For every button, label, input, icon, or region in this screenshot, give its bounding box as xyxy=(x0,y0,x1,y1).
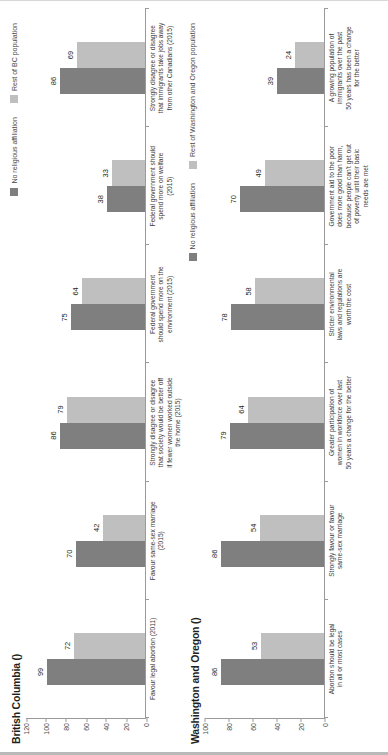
bar[interactable]: 70 xyxy=(240,186,323,212)
panel-header: British Columbia () No religious affilia… xyxy=(10,9,26,744)
x-axis-tick xyxy=(324,599,328,600)
x-axis-tick xyxy=(145,717,149,718)
x-axis-category-label: A growing population of immigrants over … xyxy=(328,9,370,127)
legend-item: Rest of Washington and Oregon population xyxy=(189,23,197,169)
bar-value-label: 49 xyxy=(254,169,263,177)
bar[interactable]: 79 xyxy=(230,423,324,449)
legend-item: No religious affiliation xyxy=(10,117,18,195)
bar[interactable]: 64 xyxy=(248,397,324,423)
x-axis-tickmarks xyxy=(142,9,146,718)
bar-value-label: 78 xyxy=(220,313,229,321)
x-axis-category-label: Favour legal abortion (2011) xyxy=(149,600,183,718)
bar-value-label: 58 xyxy=(244,287,253,295)
x-axis-tick xyxy=(324,481,328,482)
x-axis-category-label: Strongly disagree or disagree that socie… xyxy=(149,363,183,481)
bar[interactable]: 54 xyxy=(260,515,324,541)
legend-swatch-no-religious-affiliation xyxy=(189,253,197,261)
bar[interactable]: 99 xyxy=(47,659,145,685)
x-axis-tick xyxy=(324,126,328,127)
bar[interactable]: 86 xyxy=(60,423,145,449)
x-axis-category-label: Federal government should spend more on … xyxy=(149,127,183,245)
bar[interactable]: 64 xyxy=(82,278,145,304)
x-axis-category-label: Favour same-sex marriage (2015) xyxy=(149,482,183,600)
x-axis-tick xyxy=(145,599,149,600)
y-axis-tick-label: 100 xyxy=(201,723,208,735)
y-axis-tick-label: 40 xyxy=(102,723,109,731)
y-axis-tick-label: 20 xyxy=(297,723,304,731)
bar[interactable]: 38 xyxy=(107,186,145,212)
y-axis-tick-label: 100 xyxy=(42,723,49,735)
legend-label: Rest of BC population xyxy=(11,23,18,91)
bar[interactable]: 86 xyxy=(60,68,145,94)
y-axis-spacer xyxy=(325,718,370,744)
y-axis-tick-label: 60 xyxy=(83,723,90,731)
x-axis-tick xyxy=(145,481,149,482)
bar-value-label: 38 xyxy=(96,195,105,203)
bar-series-container: 997270428679756438338669 xyxy=(26,9,145,718)
bar-value-label: 75 xyxy=(60,313,69,321)
bar[interactable]: 86 xyxy=(221,659,323,685)
x-axis-tick xyxy=(324,363,328,364)
x-axis-tick xyxy=(145,126,149,127)
chart-legend: No religious affiliation Rest of BC popu… xyxy=(10,9,18,196)
x-axis-tick xyxy=(324,717,328,718)
bar-value-label: 99 xyxy=(36,668,45,676)
bar[interactable]: 39 xyxy=(277,68,323,94)
legend-item: No religious affiliation xyxy=(189,183,197,261)
rotated-page-wrapper: British Columbia () No religious affilia… xyxy=(0,0,388,755)
bar-value-label: 64 xyxy=(71,287,80,295)
bar[interactable]: 72 xyxy=(74,633,145,659)
bar-value-label: 86 xyxy=(210,668,219,676)
bar[interactable]: 75 xyxy=(71,304,145,330)
bar-series-container: 865386547964785870493924 xyxy=(205,9,324,718)
legend-swatch-rest-of-population xyxy=(189,161,197,169)
plot-area: 997270428679756438338669 xyxy=(26,9,146,718)
x-axis-tick xyxy=(145,244,149,245)
bar-value-label: 79 xyxy=(219,431,228,439)
bar[interactable]: 69 xyxy=(77,42,145,68)
bar[interactable]: 42 xyxy=(103,515,145,541)
legend-swatch-rest-of-population xyxy=(10,95,18,103)
x-axis-category-label: Strongly favour or favour same-sex marri… xyxy=(328,482,370,600)
bar-group: 7564 xyxy=(26,245,145,363)
bar[interactable]: 70 xyxy=(76,541,145,567)
bar[interactable]: 79 xyxy=(67,397,145,423)
y-axis-tick-label: 0 xyxy=(321,723,328,727)
legend-label: No religious affiliation xyxy=(189,183,196,249)
bar-group: 8669 xyxy=(26,9,145,127)
bar[interactable]: 58 xyxy=(255,278,324,304)
legend-label: No religious affiliation xyxy=(11,117,18,183)
y-axis-spacer xyxy=(146,718,183,744)
x-axis-labels: Favour legal abortion (2011)Favour same-… xyxy=(146,9,183,718)
legend-item: Rest of BC population xyxy=(10,23,18,103)
bar[interactable]: 33 xyxy=(112,160,145,186)
bar[interactable]: 53 xyxy=(261,633,324,659)
panel-washington-and-oregon: Washington and Oregon () No religious af… xyxy=(189,9,370,744)
x-axis-category-label: Government aid to the poor does more goo… xyxy=(328,127,370,245)
x-axis-tick xyxy=(324,8,328,9)
y-axis-tick-label: 80 xyxy=(225,723,232,731)
bar[interactable]: 49 xyxy=(265,160,323,186)
bar-value-label: 39 xyxy=(266,77,275,85)
bar-value-label: 24 xyxy=(284,51,293,59)
bar-group: 8653 xyxy=(205,600,324,718)
y-axis-tick-label: 60 xyxy=(249,723,256,731)
bar-value-label: 79 xyxy=(56,405,65,413)
chart-legend: No religious affiliation Rest of Washing… xyxy=(189,9,197,261)
x-axis-tick xyxy=(324,244,328,245)
y-axis-tick-label: 20 xyxy=(123,723,130,731)
plot-grid: 020406080100120 997270428679756438338669… xyxy=(26,9,183,744)
y-axis-tick-label: 80 xyxy=(62,723,69,731)
bar-group: 9972 xyxy=(26,600,145,718)
y-axis-tick-label: 120 xyxy=(23,723,30,735)
bar-value-label: 53 xyxy=(250,642,259,650)
bar-value-label: 86 xyxy=(49,431,58,439)
panel-header: Washington and Oregon () No religious af… xyxy=(189,9,205,744)
panel-title: British Columbia () xyxy=(10,654,22,744)
bar[interactable]: 24 xyxy=(295,42,324,68)
bar-group: 7042 xyxy=(26,482,145,600)
bar-group: 7858 xyxy=(205,245,324,363)
bar[interactable]: 86 xyxy=(221,541,323,567)
bar[interactable]: 78 xyxy=(231,304,324,330)
panel-title: Washington and Oregon () xyxy=(189,617,201,744)
